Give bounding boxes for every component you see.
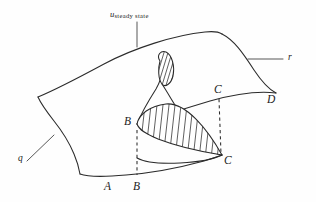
label-r: r (288, 53, 292, 63)
diagram-figure: usteady state q r A B B C C D (0, 0, 316, 202)
label-A: A (104, 181, 111, 193)
label-q: q (18, 154, 23, 164)
surface-top-edge (38, 32, 222, 97)
surface-bottom-front-edge (80, 155, 222, 176)
label-B-bottom: B (133, 181, 140, 193)
label-C-upper: C (214, 84, 222, 96)
lower-fold-edge (137, 155, 222, 163)
label-D: D (267, 94, 275, 106)
label-C-lower: C (224, 155, 232, 167)
leader-line-q (27, 135, 54, 161)
surface-left-edge-upper (38, 97, 80, 174)
label-steady-state: usteady state (110, 10, 149, 20)
surface-right-fold-edge (222, 34, 276, 93)
dashed-guide-C (219, 99, 221, 154)
label-steady-state-subscript: steady state (114, 12, 148, 19)
shock-lens-region (137, 104, 222, 155)
label-B-upper: B (124, 116, 131, 128)
